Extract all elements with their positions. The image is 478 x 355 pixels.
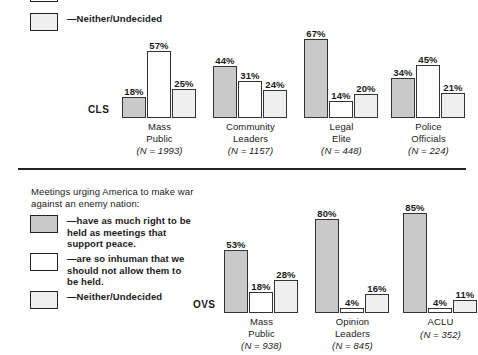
cls-bar-label-disagree-3: 45% xyxy=(418,54,437,65)
cls-bar-label-agree-1: 44% xyxy=(215,55,234,66)
cls-group-police-officials: 34% 45% 21% Police Officials(N = 224) xyxy=(391,0,466,118)
cls-bar-label-disagree-1: 31% xyxy=(240,70,259,81)
cls-category-label-0: Mass Public(N = 1993) xyxy=(136,121,182,157)
section-divider xyxy=(18,168,466,170)
cls-bar-label-agree-3: 34% xyxy=(393,67,412,78)
ovs-bar-label-neither-0: 28% xyxy=(276,269,295,280)
cls-bar-label-disagree-2: 14% xyxy=(331,90,350,101)
cls-group-mass-public: 18% 57% 25% Mass Public(N = 1993) xyxy=(122,0,197,118)
cls-bar-agree-0: 18% xyxy=(122,97,146,118)
cls-category-label-1: Community Leaders(N = 1157) xyxy=(226,121,275,157)
cls-bar-label-agree-2: 67% xyxy=(306,28,325,39)
cls-bar-disagree-2: 14% xyxy=(329,101,353,118)
cls-bar-agree-2: 67% xyxy=(304,39,328,118)
ovs-category-label-1: Opinion Leaders(N = 845) xyxy=(332,316,373,352)
ovs-bar-disagree-1: 4% xyxy=(340,308,364,313)
cls-bar-label-neither-3: 21% xyxy=(443,82,462,93)
cls-plot-area: CLS 18% 57% 25% Mass Public(N = 1993) 44… xyxy=(0,0,478,118)
ovs-group-aclu: 85% 4% 11% ACLU(N = 352) xyxy=(403,195,478,313)
ovs-bar-disagree-0: 18% xyxy=(249,292,273,313)
cls-bar-agree-1: 44% xyxy=(213,66,237,118)
cls-series-tag: CLS xyxy=(88,104,109,115)
cls-bar-label-neither-2: 20% xyxy=(356,83,375,94)
ovs-bar-agree-2: 85% xyxy=(403,213,427,313)
cls-category-label-2: Legal Elite(N = 448) xyxy=(321,121,362,157)
ovs-plot-area: OVS 53% 18% 28% Mass Public(N = 938) 80%… xyxy=(0,195,478,313)
ovs-category-label-0: Mass Public(N = 938) xyxy=(241,316,282,352)
ovs-bar-label-neither-1: 16% xyxy=(367,283,386,294)
ovs-bar-neither-2: 11% xyxy=(453,300,477,313)
cls-bar-label-neither-1: 24% xyxy=(265,79,284,90)
ovs-bar-neither-0: 28% xyxy=(274,280,298,313)
ovs-bar-label-disagree-0: 18% xyxy=(251,281,270,292)
cls-bar-label-disagree-0: 57% xyxy=(149,40,168,51)
ovs-bar-label-disagree-1: 4% xyxy=(345,297,359,308)
cls-bar-label-agree-0: 18% xyxy=(124,86,143,97)
ovs-bar-label-agree-2: 85% xyxy=(405,202,424,213)
cls-bar-neither-0: 25% xyxy=(172,89,196,119)
cls-bar-neither-3: 21% xyxy=(441,93,465,118)
ovs-bar-label-agree-0: 53% xyxy=(226,239,245,250)
ovs-category-label-2: ACLU(N = 352) xyxy=(420,316,461,340)
ovs-bar-label-neither-2: 11% xyxy=(456,289,475,300)
ovs-bar-agree-1: 80% xyxy=(315,219,339,313)
cls-bar-label-neither-0: 25% xyxy=(174,78,193,89)
cls-bar-disagree-0: 57% xyxy=(147,51,171,118)
cls-bar-agree-3: 34% xyxy=(391,78,415,118)
cls-bar-neither-1: 24% xyxy=(263,90,287,118)
ovs-bar-disagree-2: 4% xyxy=(428,308,452,313)
ovs-bar-label-agree-1: 80% xyxy=(317,208,336,219)
cls-category-label-3: Police Officials(N = 224) xyxy=(408,121,449,157)
ovs-group-mass-public: 53% 18% 28% Mass Public(N = 938) xyxy=(224,195,299,313)
cls-bar-disagree-3: 45% xyxy=(416,65,440,118)
cls-group-legal-elite: 67% 14% 20% Legal Elite(N = 448) xyxy=(304,0,379,118)
cls-group-community-leaders: 44% 31% 24% Community Leaders(N = 1157) xyxy=(213,0,288,118)
ovs-bar-label-disagree-2: 4% xyxy=(433,297,447,308)
cls-bar-neither-2: 20% xyxy=(354,94,378,118)
ovs-bar-agree-0: 53% xyxy=(224,250,248,313)
ovs-bar-neither-1: 16% xyxy=(365,294,389,313)
ovs-group-opinion-leaders: 80% 4% 16% Opinion Leaders(N = 845) xyxy=(315,195,390,313)
ovs-series-tag: OVS xyxy=(193,299,215,310)
cls-bar-disagree-1: 31% xyxy=(238,81,262,118)
